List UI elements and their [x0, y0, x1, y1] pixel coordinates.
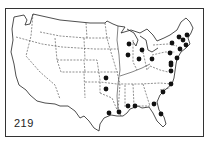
location-dot [159, 112, 164, 117]
location-dot [117, 110, 122, 115]
location-dot [185, 33, 190, 38]
location-dot [178, 47, 183, 52]
location-dot [161, 90, 166, 95]
location-dot [137, 57, 142, 62]
location-dot [181, 38, 186, 43]
map-number-label: 219 [14, 117, 34, 129]
location-dot [169, 63, 174, 68]
location-dot [168, 51, 173, 56]
location-dot [170, 41, 175, 46]
map-frame [6, 9, 204, 137]
location-dot [127, 42, 132, 47]
location-dot [177, 35, 182, 40]
location-dot [126, 53, 131, 58]
location-dot [126, 104, 131, 109]
location-dot [107, 111, 112, 116]
location-dot [104, 87, 109, 92]
location-dot [150, 57, 155, 62]
location-dot [184, 43, 189, 48]
location-dot [140, 48, 145, 53]
location-dot [133, 104, 138, 109]
location-dot [104, 76, 109, 81]
location-dot [169, 69, 174, 74]
location-dot [152, 102, 157, 107]
location-dot [175, 56, 180, 61]
location-dot [169, 82, 174, 87]
